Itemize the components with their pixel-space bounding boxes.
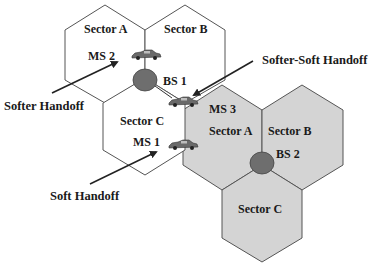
softer-handoff-label: Softer Handoff xyxy=(4,99,85,113)
cell1-sector-a-label: Sector A xyxy=(84,22,128,36)
cell2-sector-b-label: Sector B xyxy=(268,124,311,138)
cell1-sector-b-label: Sector B xyxy=(164,22,207,36)
bs1-label: BS 1 xyxy=(163,74,187,88)
bs2-icon xyxy=(250,152,274,174)
bs2-label: BS 2 xyxy=(276,147,300,161)
ms1-label: MS 1 xyxy=(133,135,160,149)
cell2-sector-c-label: Sector C xyxy=(238,202,282,216)
cell1-sector-c-label: Sector C xyxy=(120,114,164,128)
handoff-diagram: Sector A Sector B Sector C BS 1 Sector A… xyxy=(0,0,375,267)
ms3-label: MS 3 xyxy=(209,102,236,116)
bs1-icon xyxy=(133,69,157,91)
cell2-sector-a-label: Sector A xyxy=(209,124,253,138)
soft-handoff-label: Soft Handoff xyxy=(50,189,120,203)
ms2-label: MS 2 xyxy=(88,49,115,63)
softer-soft-handoff-label: Softer-Soft Handoff xyxy=(262,53,368,67)
